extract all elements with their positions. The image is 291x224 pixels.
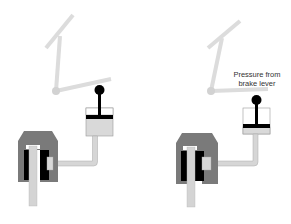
lever-pivot <box>207 87 215 95</box>
brake-pad-inner <box>181 151 187 181</box>
panel-applied: Pressure from brake lever <box>176 21 281 207</box>
hydraulic-line <box>53 136 98 166</box>
master-cylinder <box>243 95 270 134</box>
brake-diagram: Pressure from brake lever <box>0 0 291 224</box>
brake-rotor <box>29 146 37 206</box>
caliper <box>176 133 218 207</box>
caliper-piston <box>202 157 211 170</box>
lever-knob <box>95 85 105 95</box>
master-cylinder <box>86 85 113 136</box>
panel-released <box>18 15 113 206</box>
pressure-label-line2: brake lever <box>238 79 276 88</box>
piston-rod <box>255 103 258 125</box>
hydraulic-line <box>211 134 258 166</box>
piston-rod <box>98 92 101 116</box>
brake-lever <box>46 15 111 91</box>
lever-pivot <box>52 87 60 95</box>
caliper <box>18 131 58 206</box>
brake-rotor <box>187 147 195 207</box>
caliper-piston <box>47 157 53 170</box>
lever-knob <box>252 95 262 105</box>
pressure-label-line1: Pressure from <box>233 70 280 79</box>
